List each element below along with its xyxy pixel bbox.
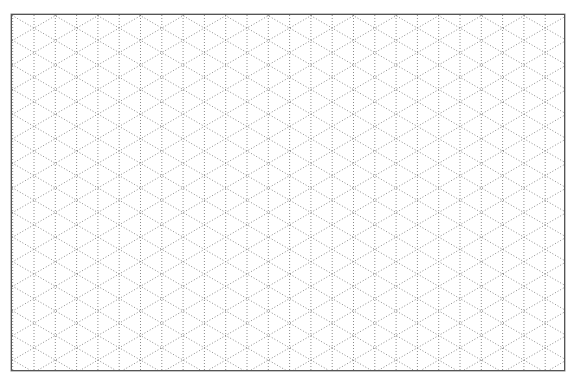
page bbox=[0, 0, 577, 385]
grid-line bbox=[12, 15, 564, 311]
grid-line bbox=[12, 360, 564, 370]
grid-line bbox=[12, 15, 564, 211]
grid-line bbox=[12, 15, 564, 162]
grid-line bbox=[12, 337, 564, 370]
grid-line bbox=[12, 310, 564, 370]
isometric-grid-frame bbox=[11, 14, 565, 371]
grid-line bbox=[12, 312, 564, 370]
grid-line bbox=[12, 335, 564, 370]
isometric-grid bbox=[12, 15, 564, 370]
grid-line bbox=[12, 138, 564, 370]
grid-line bbox=[12, 362, 564, 370]
grid-line bbox=[12, 163, 564, 370]
